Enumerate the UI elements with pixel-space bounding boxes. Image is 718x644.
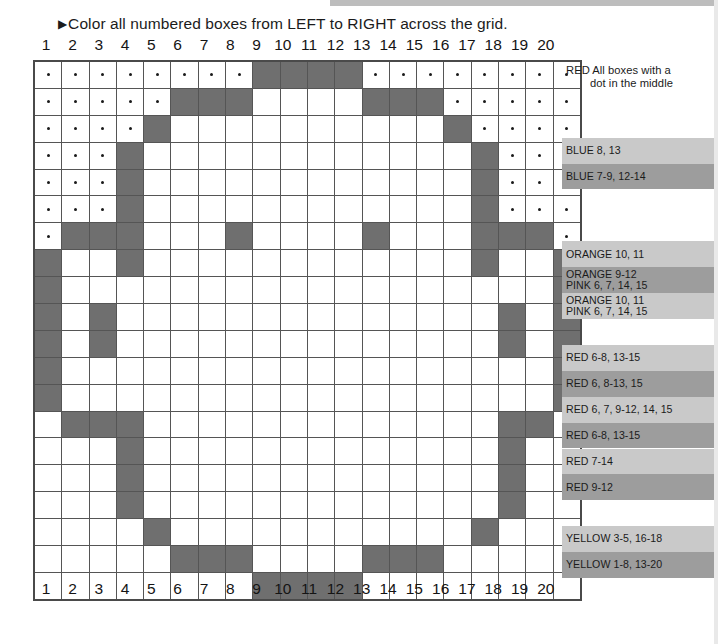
- grid-cell-r15-c8[interactable]: [226, 438, 253, 465]
- grid-cell-r5-c6[interactable]: [171, 169, 198, 196]
- grid-cell-r13-c2[interactable]: [62, 384, 89, 411]
- grid-cell-r3-c17[interactable]: [471, 115, 498, 142]
- grid-cell-r4-c16[interactable]: [444, 142, 471, 169]
- grid-cell-r11-c5[interactable]: [144, 330, 171, 357]
- grid-cell-r5-c11[interactable]: [307, 169, 334, 196]
- grid-cell-r2-c4[interactable]: [116, 88, 143, 115]
- grid-cell-r12-c2[interactable]: [62, 357, 89, 384]
- grid-cell-r15-c2[interactable]: [62, 438, 89, 465]
- grid-cell-r1-c9[interactable]: [253, 61, 280, 88]
- grid-cell-r8-c1[interactable]: [34, 250, 62, 277]
- grid-cell-r14-c13[interactable]: [362, 411, 389, 438]
- grid-cell-r16-c11[interactable]: [307, 465, 334, 492]
- grid-cell-r14-c10[interactable]: [280, 411, 307, 438]
- grid-cell-r16-c6[interactable]: [171, 465, 198, 492]
- grid-cell-r14-c7[interactable]: [198, 411, 225, 438]
- grid-cell-r5-c18[interactable]: [499, 169, 526, 196]
- grid-cell-r13-c8[interactable]: [226, 384, 253, 411]
- grid-cell-r13-c12[interactable]: [335, 384, 362, 411]
- grid-cell-r9-c13[interactable]: [362, 277, 389, 304]
- grid-cell-r6-c3[interactable]: [89, 196, 116, 223]
- grid-cell-r7-c5[interactable]: [144, 223, 171, 250]
- grid-cell-r7-c6[interactable]: [171, 223, 198, 250]
- grid-cell-r5-c14[interactable]: [389, 169, 416, 196]
- grid-cell-r11-c11[interactable]: [307, 330, 334, 357]
- grid-cell-r12-c9[interactable]: [253, 357, 280, 384]
- grid-cell-r8-c9[interactable]: [253, 250, 280, 277]
- grid-cell-r9-c7[interactable]: [198, 277, 225, 304]
- grid-cell-r15-c18[interactable]: [499, 438, 526, 465]
- grid-cell-r3-c15[interactable]: [417, 115, 444, 142]
- grid-cell-r12-c8[interactable]: [226, 357, 253, 384]
- grid-cell-r14-c11[interactable]: [307, 411, 334, 438]
- grid-cell-r13-c1[interactable]: [34, 384, 62, 411]
- grid-cell-r8-c7[interactable]: [198, 250, 225, 277]
- grid-cell-r8-c12[interactable]: [335, 250, 362, 277]
- grid-cell-r2-c2[interactable]: [62, 88, 89, 115]
- grid-cell-r16-c15[interactable]: [417, 465, 444, 492]
- grid-cell-r17-c12[interactable]: [335, 492, 362, 519]
- grid-cell-r3-c16[interactable]: [444, 115, 471, 142]
- grid-cell-r6-c9[interactable]: [253, 196, 280, 223]
- grid-cell-r2-c3[interactable]: [89, 88, 116, 115]
- grid-cell-r3-c6[interactable]: [171, 115, 198, 142]
- grid-cell-r7-c14[interactable]: [389, 223, 416, 250]
- grid-cell-r5-c4[interactable]: [116, 169, 143, 196]
- grid-cell-r12-c5[interactable]: [144, 357, 171, 384]
- grid-cell-r11-c19[interactable]: [526, 330, 553, 357]
- grid-cell-r8-c3[interactable]: [89, 250, 116, 277]
- grid-cell-r12-c6[interactable]: [171, 357, 198, 384]
- grid-cell-r12-c12[interactable]: [335, 357, 362, 384]
- grid-cell-r13-c19[interactable]: [526, 384, 553, 411]
- grid-cell-r7-c17[interactable]: [471, 223, 498, 250]
- grid-cell-r18-c15[interactable]: [417, 519, 444, 546]
- grid-cell-r11-c9[interactable]: [253, 330, 280, 357]
- grid-cell-r2-c10[interactable]: [280, 88, 307, 115]
- grid-cell-r5-c5[interactable]: [144, 169, 171, 196]
- grid-cell-r8-c17[interactable]: [471, 250, 498, 277]
- grid-cell-r2-c13[interactable]: [362, 88, 389, 115]
- grid-table[interactable]: [33, 60, 582, 601]
- grid-cell-r2-c11[interactable]: [307, 88, 334, 115]
- grid-cell-r10-c5[interactable]: [144, 304, 171, 331]
- grid-cell-r17-c8[interactable]: [226, 492, 253, 519]
- grid-cell-r14-c16[interactable]: [444, 411, 471, 438]
- grid-cell-r3-c1[interactable]: [34, 115, 62, 142]
- grid-cell-r17-c13[interactable]: [362, 492, 389, 519]
- grid-cell-r18-c7[interactable]: [198, 519, 225, 546]
- grid-cell-r10-c7[interactable]: [198, 304, 225, 331]
- grid-cell-r18-c4[interactable]: [116, 519, 143, 546]
- grid-cell-r6-c14[interactable]: [389, 196, 416, 223]
- grid-cell-r1-c1[interactable]: [34, 61, 62, 88]
- grid-cell-r4-c1[interactable]: [34, 142, 62, 169]
- grid-cell-r8-c14[interactable]: [389, 250, 416, 277]
- grid-cell-r10-c12[interactable]: [335, 304, 362, 331]
- grid-cell-r8-c15[interactable]: [417, 250, 444, 277]
- grid-cell-r13-c5[interactable]: [144, 384, 171, 411]
- grid-cell-r17-c14[interactable]: [389, 492, 416, 519]
- grid-cell-r18-c5[interactable]: [144, 519, 171, 546]
- grid-cell-r3-c11[interactable]: [307, 115, 334, 142]
- grid-cell-r17-c19[interactable]: [526, 492, 553, 519]
- grid-cell-r19-c19[interactable]: [526, 546, 553, 573]
- grid-cell-r5-c7[interactable]: [198, 169, 225, 196]
- grid-cell-r2-c14[interactable]: [389, 88, 416, 115]
- grid-cell-r16-c2[interactable]: [62, 465, 89, 492]
- grid-cell-r9-c2[interactable]: [62, 277, 89, 304]
- grid-cell-r9-c12[interactable]: [335, 277, 362, 304]
- grid-cell-r4-c2[interactable]: [62, 142, 89, 169]
- grid-cell-r16-c7[interactable]: [198, 465, 225, 492]
- grid-cell-r15-c10[interactable]: [280, 438, 307, 465]
- grid-cell-r18-c17[interactable]: [471, 519, 498, 546]
- grid-cell-r19-c6[interactable]: [171, 546, 198, 573]
- grid-cell-r15-c11[interactable]: [307, 438, 334, 465]
- grid-cell-r13-c6[interactable]: [171, 384, 198, 411]
- grid-cell-r17-c9[interactable]: [253, 492, 280, 519]
- grid-cell-r12-c3[interactable]: [89, 357, 116, 384]
- grid-cell-r19-c8[interactable]: [226, 546, 253, 573]
- grid-cell-r3-c4[interactable]: [116, 115, 143, 142]
- grid-cell-r18-c11[interactable]: [307, 519, 334, 546]
- grid-cell-r8-c10[interactable]: [280, 250, 307, 277]
- grid-cell-r17-c10[interactable]: [280, 492, 307, 519]
- grid-cell-r18-c8[interactable]: [226, 519, 253, 546]
